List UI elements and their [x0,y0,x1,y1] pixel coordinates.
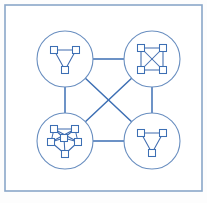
graph-node-br-1[interactable] [138,130,145,137]
panel-frame [5,5,202,191]
diagram-canvas [0,0,207,203]
cluster-top-right[interactable] [124,31,180,87]
graph-node-bl-4[interactable] [75,139,82,146]
graph-node-tl-2[interactable] [73,47,80,54]
graph-node-tr-2[interactable] [160,45,167,52]
cluster-circle-top-left [37,31,93,87]
graph-node-tr-1[interactable] [138,45,145,52]
graph-node-bl-3[interactable] [48,139,55,146]
graph-node-bl-2[interactable] [72,126,79,133]
graph-node-tl-1[interactable] [51,47,58,54]
graph-node-tr-3[interactable] [160,67,167,74]
cluster-bottom-right[interactable] [124,113,180,169]
graph-node-bl-6[interactable] [62,151,69,158]
cluster-top-left[interactable] [37,31,93,87]
nested-network-diagram [0,0,207,203]
graph-node-tr-4[interactable] [138,67,145,74]
cluster-circle-bottom-right [124,113,180,169]
graph-node-bl-5[interactable] [61,135,68,142]
graph-node-tl-3[interactable] [62,67,69,74]
cluster-bottom-left[interactable] [37,113,93,169]
graph-node-br-2[interactable] [160,130,167,137]
graph-node-bl-1[interactable] [51,126,58,133]
graph-node-br-3[interactable] [149,150,156,157]
